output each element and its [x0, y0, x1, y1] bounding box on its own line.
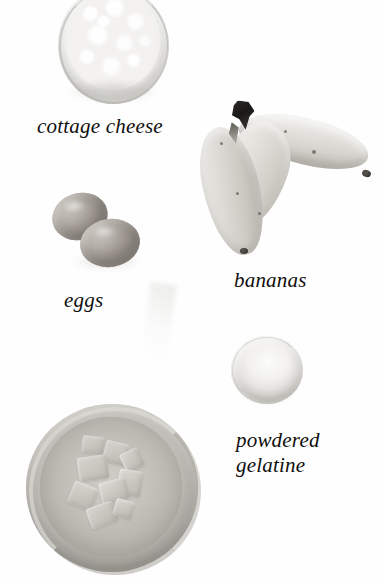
banana-right-tip — [361, 169, 372, 179]
banana-speck — [312, 150, 316, 154]
label-eggs: eggs — [64, 288, 103, 313]
cottage-cheese-drop-shadow — [70, 82, 156, 102]
fruit-bowl-rim — [29, 407, 201, 575]
banana-speck — [258, 212, 261, 215]
cottage-cheese-bowl-image — [58, 0, 168, 108]
banana-speck — [284, 130, 287, 133]
egg-upper-highlight — [62, 199, 86, 213]
egg-lower-highlight — [92, 225, 116, 238]
powdered-gelatine-image — [231, 336, 303, 406]
label-powdered-gelatine: powdered gelatine — [236, 428, 320, 478]
eggs-image — [52, 193, 144, 267]
banana-left-tip — [240, 248, 248, 254]
ingredient-plate-canvas: cottage cheese eggs bananas powdered gel… — [0, 0, 385, 578]
banana-speck — [236, 192, 239, 195]
fruit-cubes-bowl-image — [26, 404, 198, 576]
scan-smudge-artifact — [135, 282, 176, 395]
label-cottage-cheese: cottage cheese — [37, 114, 163, 139]
banana-speck — [220, 142, 223, 145]
label-bananas: bananas — [234, 268, 307, 293]
bananas-image — [196, 100, 374, 262]
gelatine-mound-edge — [232, 337, 302, 403]
